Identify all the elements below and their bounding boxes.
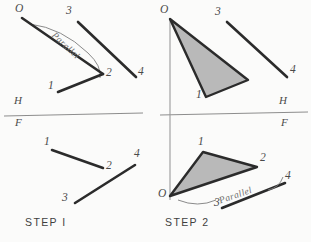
step1-plane-label-f: F — [15, 117, 22, 128]
step2-top-segment-3-4 — [227, 22, 287, 77]
step1-front-segment-1-2 — [52, 150, 103, 168]
step1-caption: STEP I — [25, 216, 66, 228]
step2-hf-reference-line — [160, 112, 308, 115]
step2-point-label-O-top: O — [160, 4, 169, 16]
step2-caption: STEP 2 — [165, 216, 209, 228]
drawing-svg — [0, 0, 311, 242]
step1-point-label-2-front: 2 — [106, 160, 112, 172]
step1-hf-reference-line — [4, 113, 143, 116]
step2-point-label-1-front: 1 — [198, 136, 204, 148]
step1-point-label-3-top: 3 — [66, 5, 72, 17]
step1-point-label-2-top: 2 — [106, 67, 112, 79]
step1-point-label-O-top: O — [15, 3, 24, 15]
step2-parallel-arc-left — [178, 200, 216, 204]
step2-point-label-4-top: 4 — [290, 64, 296, 76]
step1-point-label-4-top: 4 — [138, 66, 144, 78]
step1-top-segment-2-1 — [58, 74, 103, 92]
step2-plane-label-f: F — [281, 117, 288, 128]
step1-point-label-1-top: 1 — [48, 80, 54, 92]
step1-point-label-4-front: 4 — [134, 148, 140, 160]
step1-front-segment-3-4 — [75, 165, 135, 203]
step1-plane-label-h: H — [14, 95, 22, 106]
step2-point-label-2-front: 2 — [260, 152, 266, 164]
step1-point-label-1-front: 1 — [44, 136, 50, 148]
drawing-canvas: H F O 1 2 3 4 1 2 3 4 Parallel STEP I H … — [0, 0, 311, 242]
step2-point-label-1-top: 1 — [196, 89, 202, 101]
step2-point-label-O-front: O — [158, 188, 167, 200]
step2-plane-label-h: H — [279, 95, 287, 106]
step1-point-label-3-front: 3 — [62, 192, 68, 204]
step2-point-label-4-front: 4 — [285, 170, 291, 182]
step2-point-label-3-top: 3 — [215, 6, 221, 18]
